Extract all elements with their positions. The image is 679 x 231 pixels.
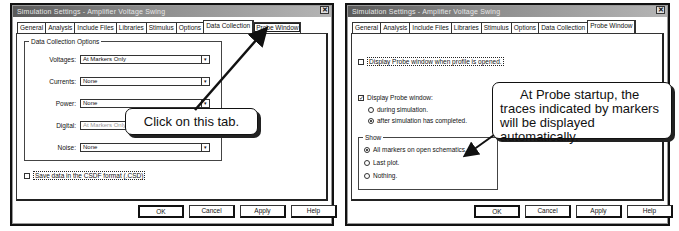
ok-button[interactable]: OK xyxy=(138,205,184,218)
display-probe-label: Display Probe window: xyxy=(367,94,433,101)
tab-data-collection[interactable]: Data Collection xyxy=(538,22,588,33)
display-on-open-row[interactable]: Display Probe window when profile is ope… xyxy=(358,57,504,66)
group-label: Data Collection Options xyxy=(29,37,101,46)
tab-options[interactable]: Options xyxy=(511,22,539,33)
ok-button[interactable]: OK xyxy=(474,205,520,218)
during-simulation-label: during simulation. xyxy=(377,106,428,113)
dialog-buttons: OK Cancel Apply Help xyxy=(138,205,337,218)
chevron-down-icon[interactable]: ▾ xyxy=(201,144,209,151)
apply-button[interactable]: Apply xyxy=(576,205,622,218)
tab-libraries[interactable]: Libraries xyxy=(116,22,147,33)
display-probe-row[interactable]: ✓ Display Probe window: xyxy=(358,94,433,101)
nothing-radio[interactable] xyxy=(364,173,370,179)
voltages-label: Voltages: xyxy=(25,56,80,63)
chevron-down-icon[interactable]: ▾ xyxy=(201,56,209,63)
tab-strip: General Analysis Include Files Libraries… xyxy=(352,21,635,33)
after-simulation-radio[interactable] xyxy=(368,118,374,124)
tab-libraries[interactable]: Libraries xyxy=(451,22,482,33)
currents-select[interactable]: None ▾ xyxy=(80,77,210,86)
display-on-open-checkbox[interactable] xyxy=(358,59,364,65)
tab-options[interactable]: Options xyxy=(176,22,204,33)
voltages-row: Voltages: At Markers Only ▾ xyxy=(25,55,210,64)
cancel-button[interactable]: Cancel xyxy=(189,205,235,218)
chevron-down-icon[interactable]: ▾ xyxy=(201,78,209,85)
noise-label: Noise: xyxy=(25,144,80,151)
noise-value: None xyxy=(83,144,97,150)
title-bar: Simulation Settings - Amplifier Voltage … xyxy=(13,6,331,17)
all-markers-option[interactable]: All markers on open schematics. xyxy=(364,146,467,153)
noise-row: Noise: None ▾ xyxy=(25,143,210,152)
save-csdf-checkbox-row[interactable]: Save data in the CSDF format (.CSD) xyxy=(24,171,145,180)
tab-probe-window[interactable]: Probe Window xyxy=(587,20,636,33)
after-simulation-option[interactable]: after simulation has completed. xyxy=(368,117,467,124)
all-markers-label: All markers on open schematics. xyxy=(373,146,467,153)
last-plot-label: Last plot. xyxy=(373,159,399,166)
power-row: Power: None ▾ xyxy=(25,99,210,108)
cancel-button[interactable]: Cancel xyxy=(525,205,571,218)
save-csdf-checkbox[interactable] xyxy=(24,173,30,179)
display-probe-checkbox[interactable]: ✓ xyxy=(358,95,364,101)
window-title: Simulation Settings - Amplifier Voltage … xyxy=(17,8,165,15)
power-select[interactable]: None ▾ xyxy=(80,99,210,108)
tab-general[interactable]: General xyxy=(17,22,46,33)
noise-select[interactable]: None ▾ xyxy=(80,143,210,152)
tab-analysis[interactable]: Analysis xyxy=(45,22,75,33)
chevron-down-icon[interactable]: ▾ xyxy=(201,100,209,107)
callout-probe-startup: At Probe startup, the traces indicated b… xyxy=(492,82,672,139)
window-title: Simulation Settings - Amplifier Voltage … xyxy=(352,8,500,15)
voltages-value: At Markers Only xyxy=(83,56,126,62)
dialog-buttons: OK Cancel Apply Help xyxy=(474,205,673,218)
nothing-option[interactable]: Nothing. xyxy=(364,172,397,179)
callout-text: At Probe startup, the traces indicated b… xyxy=(500,87,659,144)
tab-strip: General Analysis Include Files Libraries… xyxy=(17,21,300,33)
digital-label: Digital: xyxy=(25,122,80,129)
apply-button[interactable]: Apply xyxy=(240,205,286,218)
help-button[interactable]: Help xyxy=(291,205,337,218)
after-simulation-label: after simulation has completed. xyxy=(377,117,467,124)
voltages-select[interactable]: At Markers Only ▾ xyxy=(80,55,210,64)
digital-value: At Markers Only xyxy=(83,122,126,128)
tab-general[interactable]: General xyxy=(352,22,381,33)
help-button[interactable]: Help xyxy=(627,205,673,218)
callout-text: Click on this tab. xyxy=(144,114,239,129)
last-plot-radio[interactable] xyxy=(364,160,370,166)
during-simulation-radio[interactable] xyxy=(368,107,374,113)
close-icon[interactable]: ✕ xyxy=(656,6,665,14)
close-icon[interactable]: ✕ xyxy=(320,6,329,14)
currents-value: None xyxy=(83,78,97,84)
callout-click-tab: Click on this tab. xyxy=(125,108,258,135)
tab-include-files[interactable]: Include Files xyxy=(74,22,117,33)
tab-stimulus[interactable]: Stimulus xyxy=(146,22,177,33)
show-group-label: Show xyxy=(363,133,383,142)
power-label: Power: xyxy=(25,100,80,107)
currents-row: Currents: None ▾ xyxy=(25,77,210,86)
tab-data-collection[interactable]: Data Collection xyxy=(203,20,254,33)
tab-stimulus[interactable]: Stimulus xyxy=(481,22,512,33)
display-on-open-label: Display Probe window when profile is ope… xyxy=(367,57,504,66)
currents-label: Currents: xyxy=(25,78,80,85)
title-bar: Simulation Settings - Amplifier Voltage … xyxy=(348,6,667,17)
during-simulation-option[interactable]: during simulation. xyxy=(368,106,428,113)
save-csdf-label: Save data in the CSDF format (.CSD) xyxy=(33,171,145,180)
show-group: Show All markers on open schematics. Las… xyxy=(358,137,498,190)
nothing-label: Nothing. xyxy=(373,172,397,179)
tab-analysis[interactable]: Analysis xyxy=(380,22,410,33)
power-value: None xyxy=(83,100,97,106)
tab-probe-window[interactable]: Probe Window xyxy=(253,22,301,33)
data-collection-options-group: Data Collection Options Voltages: At Mar… xyxy=(24,41,222,161)
last-plot-option[interactable]: Last plot. xyxy=(364,159,399,166)
tab-include-files[interactable]: Include Files xyxy=(409,22,452,33)
all-markers-radio[interactable] xyxy=(364,147,370,153)
